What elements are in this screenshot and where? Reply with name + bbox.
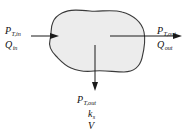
- outlet-power-label: PT,out: [157, 26, 176, 36]
- outlet-power-symbol: P: [157, 25, 163, 36]
- inlet-power-subscript: T,in: [12, 30, 21, 37]
- outlet-flow-label: Qout: [157, 40, 172, 50]
- inlet-flow-subscript: in: [13, 44, 18, 51]
- loss-power-subscript: T,out: [84, 99, 96, 106]
- inlet-power-label: PT,in: [5, 26, 21, 36]
- loss-volume-symbol: V: [88, 120, 94, 131]
- inlet-power-symbol: P: [5, 25, 11, 36]
- outlet-power-subscript: T,out: [164, 30, 176, 37]
- loss-stiffness-label: ks: [88, 109, 95, 119]
- loss-stiffness-symbol: k: [88, 108, 93, 119]
- inlet-flow-symbol: Q: [5, 39, 12, 50]
- outlet-flow-subscript: out: [165, 44, 173, 51]
- inlet-flow-label: Qin: [5, 40, 17, 50]
- loss-volume-label: V: [88, 121, 94, 131]
- loss-stiffness-subscript: s: [93, 113, 95, 120]
- loss-power-label: PT,out: [77, 95, 96, 105]
- outlet-flow-symbol: Q: [157, 39, 164, 50]
- control-volume-shape: [49, 10, 144, 72]
- control-volume-diagram: PT,in Qin PT,out Qout PT,out ks V: [0, 0, 191, 136]
- loss-power-symbol: P: [77, 94, 83, 105]
- diagram-canvas: [0, 0, 191, 136]
